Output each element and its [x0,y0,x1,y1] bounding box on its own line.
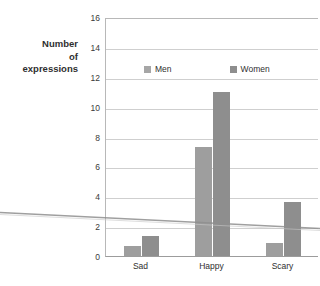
legend-swatch-men-icon [144,66,151,73]
legend-label-men: Men [155,64,172,74]
y-axis-title-line-1: Number [6,38,78,51]
x-axis-tick-labels: SadHappyScary [105,260,318,276]
y-axis-tick-label: 2 [74,223,100,232]
y-axis-tick-label: 14 [74,44,100,53]
x-axis-tick-label-happy: Happy [199,260,224,272]
bar-women-sad [142,236,159,256]
x-axis-tick-label-scary: Scary [272,260,294,272]
y-axis-title-line-3: expressions [6,63,78,76]
chart-screenshot: Number of expressions 1614121086420 Men … [0,0,320,286]
bar-women-happy [213,92,230,256]
y-axis-title-line-2: of [6,51,78,64]
legend-label-women: Women [241,64,270,74]
bar-women-scary [284,202,301,256]
y-axis-tick-label: 16 [74,14,100,23]
y-axis-tick-label: 10 [74,104,100,113]
y-axis-tick-label: 6 [74,163,100,172]
chart-legend: Men Women [144,64,270,74]
bars-layer [106,19,318,256]
legend-entry-men: Men [144,64,172,74]
cropped-header-text [232,0,318,9]
plot-area: Men Women [105,18,318,257]
bar-men-sad [124,246,141,256]
y-axis-tick-labels: 1614121086420 [72,18,100,257]
y-axis-tick-label: 12 [74,74,100,83]
y-axis-title: Number of expressions [6,38,78,76]
x-axis-tick-label-sad: Sad [133,260,148,272]
y-axis-tick-label: 8 [74,134,100,143]
bar-men-happy [195,147,212,256]
legend-swatch-women-icon [230,66,237,73]
bar-men-scary [266,243,283,256]
legend-entry-women: Women [230,64,270,74]
y-axis-tick-label: 4 [74,193,100,202]
y-axis-tick-label: 0 [74,253,100,262]
